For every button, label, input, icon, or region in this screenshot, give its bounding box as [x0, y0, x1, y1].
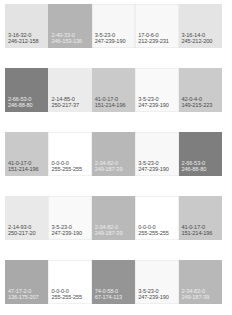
- cmyk-value: 3-5-23-0: [138, 96, 169, 103]
- rgb-value: 255-255-255: [51, 294, 82, 301]
- rgb-value: 136-175-207: [8, 294, 39, 301]
- rgb-value: 151-214-196: [8, 166, 39, 173]
- cmyk-value: 2-34-82-0: [95, 224, 123, 231]
- swatch-label: 3-5-23-0247-239-190: [138, 288, 169, 301]
- color-swatch: 41-0-17-0151-214-196: [5, 132, 48, 176]
- color-swatch: 3-16-32-0246-212-158: [5, 4, 48, 48]
- swatch-label: 17-0-6-0212-239-231: [138, 32, 169, 45]
- swatch-label: 0-0-0-0255-255-255: [51, 288, 82, 301]
- color-swatch: 0-0-0-0255-255-255: [135, 196, 178, 240]
- rgb-value: 151-214-196: [182, 230, 213, 237]
- swatch-label: 3-16-32-0246-212-158: [8, 32, 39, 45]
- color-swatch: 2-34-82-0249-187-39: [92, 196, 135, 240]
- swatch-row: 47-17-2-0136-175-2070-0-0-0255-255-25574…: [5, 260, 222, 304]
- rgb-value: 255-255-255: [138, 230, 169, 237]
- color-swatch: 74-0-58-067-174-113: [92, 260, 135, 304]
- swatch-label: 0-0-0-0255-255-255: [51, 160, 82, 173]
- cmyk-value: 41-0-17-0: [8, 160, 39, 167]
- cmyk-value: 74-0-58-0: [95, 288, 122, 295]
- color-swatch: 0-0-0-0255-255-255: [48, 132, 91, 176]
- swatch-label: 41-0-17-0151-214-196: [182, 224, 213, 237]
- swatch-row: 2-14-93-0250-217-203-5-23-0247-239-1902-…: [5, 196, 222, 240]
- swatch-label: 47-17-2-0136-175-207: [8, 288, 39, 301]
- color-swatch: 2-66-53-0246-88-80: [5, 68, 48, 112]
- cmyk-value: 2-66-53-0: [182, 160, 207, 167]
- color-swatch: 2-14-85-0250-217-37: [48, 68, 91, 112]
- color-swatch: 3-5-23-0247-239-190: [48, 196, 91, 240]
- swatch-label: 3-16-14-0245-212-200: [182, 32, 213, 45]
- color-swatch: 3-16-14-0245-212-200: [179, 4, 222, 48]
- swatch-label: 2-14-93-0250-217-20: [8, 224, 36, 237]
- cmyk-value: 41-0-17-0: [95, 96, 126, 103]
- swatch-row: 41-0-17-0151-214-1960-0-0-0255-255-2552-…: [5, 132, 222, 176]
- color-swatch: 42-0-4-0149-215-223: [179, 68, 222, 112]
- color-swatch: 2-14-93-0250-217-20: [5, 196, 48, 240]
- color-swatch: 2-34-82-0249-187-39: [92, 132, 135, 176]
- cmyk-value: 2-34-82-0: [95, 160, 123, 167]
- cmyk-value: 2-66-53-0: [8, 96, 33, 103]
- rgb-value: 247-239-190: [138, 102, 169, 109]
- rgb-value: 249-187-39: [95, 166, 123, 173]
- rgb-value: 151-214-196: [95, 102, 126, 109]
- color-swatch: 3-5-23-0247-239-190: [135, 260, 178, 304]
- swatch-label: 3-5-23-0247-239-190: [138, 96, 169, 109]
- rgb-value: 245-212-200: [182, 38, 213, 45]
- swatch-row: 2-66-53-0246-88-802-14-85-0250-217-3741-…: [5, 68, 222, 112]
- cmyk-value: 42-0-4-0: [182, 96, 213, 103]
- cmyk-value: 0-0-0-0: [51, 160, 82, 167]
- rgb-value: 247-239-190: [51, 230, 82, 237]
- cmyk-value: 3-5-23-0: [138, 160, 169, 167]
- cmyk-value: 2-40-33-0: [51, 32, 82, 39]
- swatch-label: 2-66-53-0246-88-80: [182, 160, 207, 173]
- swatch-label: 41-0-17-0151-214-196: [8, 160, 39, 173]
- swatch-grid: 3-16-32-0246-212-1582-40-33-0246-153-136…: [5, 4, 222, 315]
- cmyk-value: 3-5-23-0: [138, 288, 169, 295]
- rgb-value: 212-239-231: [138, 38, 169, 45]
- swatch-label: 0-0-0-0255-255-255: [138, 224, 169, 237]
- rgb-value: 249-187-39: [182, 294, 210, 301]
- color-swatch: 3-5-23-0247-239-190: [135, 132, 178, 176]
- cmyk-value: 2-14-93-0: [8, 224, 36, 231]
- color-swatch: 2-66-53-0246-88-80: [179, 132, 222, 176]
- color-swatch: 3-5-23-0247-239-190: [135, 68, 178, 112]
- cmyk-value: 2-34-82-0: [182, 288, 210, 295]
- color-swatch: 2-34-82-0249-187-39: [179, 260, 222, 304]
- cmyk-value: 0-0-0-0: [138, 224, 169, 231]
- rgb-value: 246-88-80: [8, 102, 33, 109]
- color-swatch: 41-0-17-0151-214-196: [92, 68, 135, 112]
- cmyk-value: 3-5-23-0: [51, 224, 82, 231]
- swatch-label: 3-5-23-0247-239-190: [138, 160, 169, 173]
- color-swatch: 47-17-2-0136-175-207: [5, 260, 48, 304]
- cmyk-value: 17-0-6-0: [138, 32, 169, 39]
- rgb-value: 247-239-190: [138, 166, 169, 173]
- cmyk-value: 3-16-32-0: [8, 32, 39, 39]
- rgb-value: 246-153-136: [51, 38, 82, 45]
- color-swatch: 17-0-6-0212-239-231: [135, 4, 178, 48]
- cmyk-value: 3-5-23-0: [95, 32, 126, 39]
- swatch-label: 2-34-82-0249-187-39: [95, 224, 123, 237]
- swatch-label: 3-5-23-0247-239-190: [95, 32, 126, 45]
- swatch-row: 3-16-32-0246-212-1582-40-33-0246-153-136…: [5, 4, 222, 48]
- swatch-label: 3-5-23-0247-239-190: [51, 224, 82, 237]
- color-swatch: 41-0-17-0151-214-196: [179, 196, 222, 240]
- swatch-label: 2-14-85-0250-217-37: [51, 96, 79, 109]
- rgb-value: 247-239-190: [95, 38, 126, 45]
- swatch-label: 74-0-58-067-174-113: [95, 288, 122, 301]
- cmyk-value: 47-17-2-0: [8, 288, 39, 295]
- cmyk-value: 41-0-17-0: [182, 224, 213, 231]
- rgb-value: 250-217-37: [51, 102, 79, 109]
- rgb-value: 255-255-255: [51, 166, 82, 173]
- cmyk-value: 3-16-14-0: [182, 32, 213, 39]
- color-swatch: 0-0-0-0255-255-255: [48, 260, 91, 304]
- swatch-label: 41-0-17-0151-214-196: [95, 96, 126, 109]
- rgb-value: 246-88-80: [182, 166, 207, 173]
- rgb-value: 247-239-190: [138, 294, 169, 301]
- swatch-label: 2-40-33-0246-153-136: [51, 32, 82, 45]
- color-swatch: 2-40-33-0246-153-136: [48, 4, 91, 48]
- swatch-label: 2-34-82-0249-187-39: [182, 288, 210, 301]
- rgb-value: 250-217-20: [8, 230, 36, 237]
- rgb-value: 249-187-39: [95, 230, 123, 237]
- swatch-label: 42-0-4-0149-215-223: [182, 96, 213, 109]
- cmyk-value: 2-14-85-0: [51, 96, 79, 103]
- rgb-value: 246-212-158: [8, 38, 39, 45]
